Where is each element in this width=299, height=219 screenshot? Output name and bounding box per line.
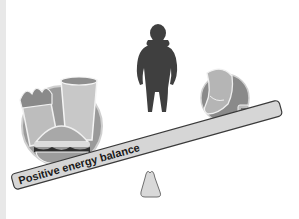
energy-balance-diagram: Positive energy balance: [0, 0, 299, 219]
person-silhouette-icon: [137, 24, 177, 112]
triangle-fulcrum-icon: [141, 171, 161, 197]
